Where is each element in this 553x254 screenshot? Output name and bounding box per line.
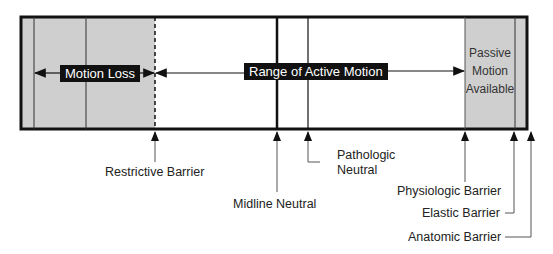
- range-active-label: Range of Active Motion: [244, 63, 388, 80]
- passive-motion-label: Passive Motion Available: [465, 44, 515, 98]
- anatomic-barrier-label: Anatomic Barrier: [408, 230, 501, 245]
- elastic-barrier-label: Elastic Barrier: [422, 206, 500, 221]
- midline-neutral-label: Midline Neutral: [233, 197, 316, 212]
- restrictive-barrier-label: Restrictive Barrier: [105, 165, 204, 180]
- physiologic-barrier-label: Physiologic Barrier: [397, 184, 501, 199]
- motion-loss-label: Motion Loss: [60, 65, 140, 82]
- pathologic-neutral-label: Pathologic Neutral: [337, 148, 395, 178]
